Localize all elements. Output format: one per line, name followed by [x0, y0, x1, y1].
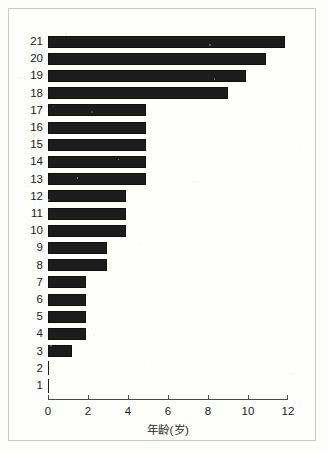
x-axis-label: 年龄(岁)	[48, 421, 288, 437]
x-axis: 024681012	[48, 399, 288, 400]
chart-figure: 212019181716151413121110987654321 024681…	[0, 0, 328, 452]
y-axis-tick-label: 1	[37, 378, 43, 392]
x-axis-tick-label: 4	[125, 405, 131, 417]
bar	[48, 311, 86, 323]
bar-row: 19	[48, 67, 288, 84]
y-axis-tick-label: 18	[30, 86, 43, 100]
bar-row: 6	[48, 291, 288, 308]
x-axis-tick	[208, 395, 209, 399]
bar-row: 11	[48, 205, 288, 222]
bar	[48, 345, 72, 357]
bar-row: 1	[48, 377, 288, 394]
bar-row: 9	[48, 239, 288, 256]
bar	[48, 208, 126, 220]
bar	[48, 53, 266, 65]
bar	[48, 294, 86, 306]
bar-row: 10	[48, 222, 288, 239]
bar-row: 4	[48, 325, 288, 342]
bar-row: 16	[48, 119, 288, 136]
bar-row: 13	[48, 171, 288, 188]
bar-row: 14	[48, 153, 288, 170]
x-axis-tick-label: 0	[45, 405, 51, 417]
x-axis-tick	[248, 395, 249, 399]
bar	[48, 259, 107, 271]
bar-row: 20	[48, 50, 288, 67]
y-axis-tick-label: 11	[31, 206, 43, 220]
y-axis-tick-label: 15	[30, 137, 43, 151]
bar-row: 21	[48, 33, 288, 50]
x-axis-tick-label: 10	[242, 405, 255, 417]
bar	[48, 242, 107, 254]
bar-row: 18	[48, 85, 288, 102]
y-axis-tick-label: 13	[30, 172, 43, 186]
bar	[48, 379, 49, 393]
bar-row: 12	[48, 188, 288, 205]
x-axis-tick-label: 12	[282, 405, 295, 417]
bar-row: 15	[48, 136, 288, 153]
bar-row: 17	[48, 102, 288, 119]
bar-row: 7	[48, 274, 288, 291]
bar	[48, 139, 146, 151]
y-axis-tick-label: 7	[37, 275, 43, 289]
bar-row: 3	[48, 343, 288, 360]
y-axis-tick-label: 16	[30, 120, 43, 134]
x-axis-tick	[287, 395, 288, 399]
bar	[48, 328, 86, 340]
bar	[48, 156, 146, 168]
bar	[48, 36, 285, 48]
bar	[48, 225, 126, 237]
x-axis-tick-label: 6	[165, 405, 171, 417]
y-axis-tick-label: 3	[37, 344, 43, 358]
y-axis-tick-label: 20	[30, 51, 43, 65]
y-axis-tick-label: 10	[30, 223, 43, 237]
y-axis-tick-label: 8	[37, 258, 43, 272]
y-axis-tick-label: 14	[30, 154, 43, 168]
x-axis-tick	[168, 395, 169, 399]
bar	[48, 104, 146, 116]
bar-row: 5	[48, 308, 288, 325]
x-axis-tick-label: 8	[205, 405, 211, 417]
x-axis-tick	[128, 395, 129, 399]
y-axis-tick-label: 6	[37, 292, 43, 306]
bar	[48, 70, 246, 82]
y-axis-tick-label: 2	[37, 361, 43, 375]
bar	[48, 87, 228, 99]
bar	[48, 122, 146, 134]
bar-row: 2	[48, 360, 288, 377]
y-axis-tick-label: 19	[30, 68, 43, 82]
y-axis-tick-label: 4	[37, 326, 43, 340]
bar	[48, 173, 146, 185]
y-axis-tick-label: 21	[30, 34, 43, 48]
x-axis-tick-label: 2	[85, 405, 91, 417]
bar	[48, 361, 49, 375]
bar	[48, 276, 86, 288]
bar	[48, 190, 126, 202]
y-axis-tick-label: 9	[37, 240, 43, 254]
y-axis-tick-label: 5	[37, 309, 43, 323]
x-axis-tick	[48, 395, 49, 399]
bar-row: 8	[48, 257, 288, 274]
x-axis-tick	[88, 395, 89, 399]
bar-chart-plot-area: 212019181716151413121110987654321	[48, 33, 288, 398]
y-axis-tick-label: 12	[30, 189, 43, 203]
y-axis-tick-label: 17	[30, 103, 43, 117]
